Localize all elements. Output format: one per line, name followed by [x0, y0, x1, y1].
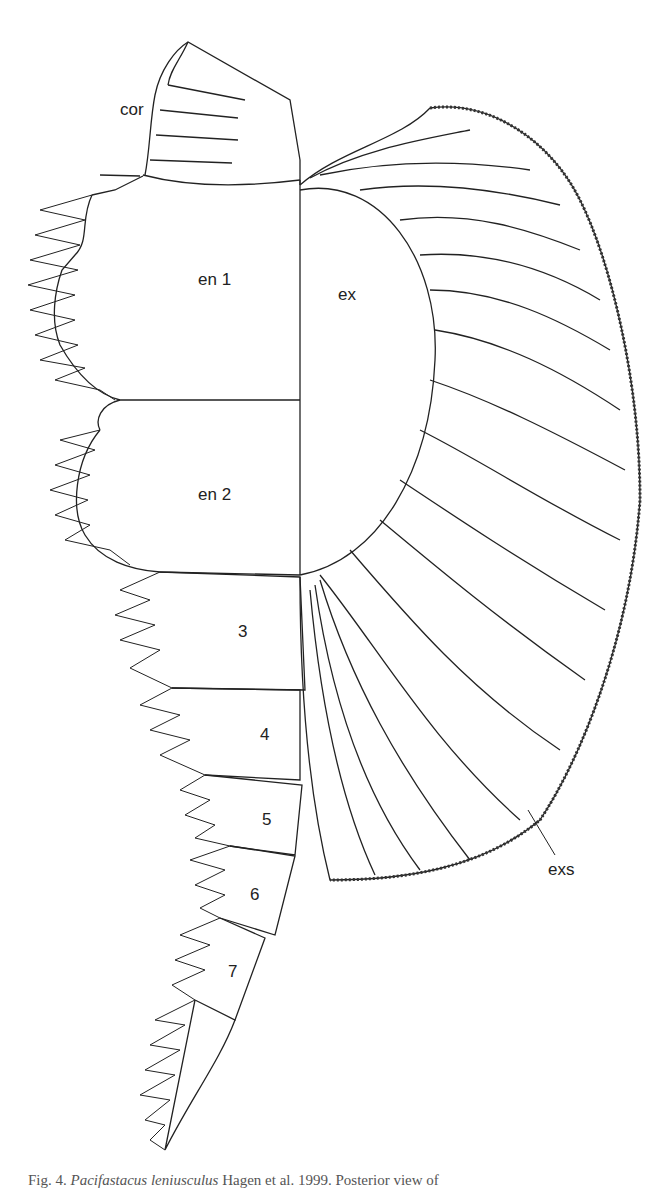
exopod-setae-fringe: [330, 107, 640, 880]
label-seg5: 5: [262, 810, 271, 830]
endopod-segment-4: [172, 688, 300, 780]
label-seg3: 3: [238, 622, 247, 642]
endopod-segment-3: [160, 572, 305, 690]
endopod-segment-2: [77, 430, 300, 575]
label-en1: en 1: [198, 270, 231, 290]
endopod-segment-1: [54, 176, 300, 430]
label-seg7: 7: [228, 962, 237, 982]
label-ex: ex: [338, 285, 356, 305]
endopod-segment-5: [205, 775, 302, 855]
exopod-outline: [300, 188, 435, 575]
label-exs: exs: [548, 860, 574, 880]
label-seg4: 4: [260, 725, 269, 745]
label-seg6: 6: [250, 885, 259, 905]
label-cor: cor: [120, 100, 144, 120]
figure-caption: Fig. 4. Pacifastacus leniusculus Hagen e…: [28, 1172, 439, 1189]
caption-rest: Hagen et al. 1999. Posterior view of: [218, 1172, 438, 1188]
caption-taxon: Pacifastacus leniusculus: [71, 1172, 219, 1188]
caption-prefix: Fig. 4.: [28, 1172, 67, 1188]
label-en2: en 2: [198, 485, 231, 505]
